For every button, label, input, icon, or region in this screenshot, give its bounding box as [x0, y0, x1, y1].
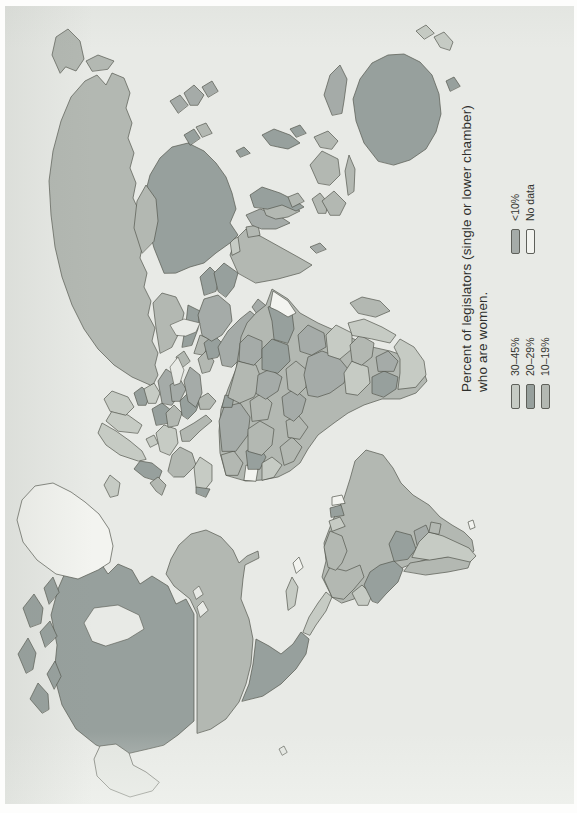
region-kamchatka	[86, 55, 114, 71]
region-germany	[156, 425, 178, 455]
region-sulawesi	[314, 131, 338, 149]
region-borneo	[310, 151, 340, 185]
region-japan	[184, 85, 204, 105]
legend-label-10-19: 10–19%	[539, 337, 551, 376]
rotated-figure-sheet: Percent of legislators (single or lower …	[0, 0, 577, 813]
region-chukotka	[52, 29, 84, 73]
legend-swatch-10-19	[541, 384, 550, 409]
region-hispaniola	[293, 557, 303, 573]
legend-label-30-45: 30–45%	[509, 337, 521, 376]
legend-item-10-19: 10–19%	[538, 337, 552, 409]
legend-swatch-30-45	[511, 384, 520, 409]
region-denmark	[146, 435, 158, 447]
region-new-zealand	[416, 25, 434, 39]
region-new-zealand	[434, 32, 453, 50]
legend-group-secondary: <10% No data	[508, 184, 538, 254]
scanned-map-figure-page: Percent of legislators (single or lower …	[0, 0, 577, 813]
region-arctic-island	[30, 683, 49, 713]
region-sri-lanka	[310, 243, 326, 253]
region-pakistan	[214, 263, 238, 297]
region-philippines	[290, 125, 306, 137]
region-central-america	[303, 592, 332, 635]
region-french-guiana	[332, 495, 345, 505]
region-iceland	[104, 475, 120, 497]
legend-group-primary: 30–45% 20–29% 10–19%	[508, 337, 553, 409]
region-tasmania	[446, 77, 460, 91]
figure-title-line2: who are women.	[475, 105, 491, 392]
figure-title: Percent of legislators (single or lower …	[459, 105, 491, 392]
region-australia	[353, 54, 441, 165]
legend-label-20-29: 20–29%	[524, 337, 536, 376]
region-japan	[170, 95, 188, 113]
region-india	[230, 229, 312, 283]
legend-swatch-20-29	[526, 384, 535, 409]
region-north-korea	[184, 129, 200, 145]
legend-label-no-data: No data	[524, 184, 536, 221]
region-new-guinea	[324, 65, 347, 115]
region-finland	[104, 391, 134, 415]
region-canada	[51, 555, 194, 755]
legend-item-30-45: 30–45%	[508, 337, 522, 409]
region-arctic-island	[23, 594, 43, 627]
legend-item-no-data: No data	[523, 184, 537, 254]
region-cuba	[286, 577, 298, 610]
region-japan	[202, 81, 218, 97]
figure-title-line1: Percent of legislators (single or lower …	[459, 105, 475, 392]
legend-item-lt10: <10%	[508, 184, 522, 254]
region-uruguay	[429, 522, 441, 534]
region-south-korea	[196, 123, 212, 137]
region-alaska	[94, 744, 159, 797]
region-suriname	[330, 505, 344, 517]
region-falklands	[468, 520, 475, 529]
legend-swatch-lt10	[511, 229, 520, 254]
region-spain	[194, 457, 212, 491]
region-taiwan	[236, 147, 250, 157]
region-portugal	[196, 487, 210, 497]
legend-item-20-29: 20–29%	[523, 337, 537, 409]
region-arctic-island	[18, 638, 36, 673]
region-hawaii	[279, 746, 287, 755]
legend-label-lt10: <10%	[509, 194, 521, 221]
region-java	[345, 155, 355, 195]
region-madagascar	[350, 297, 390, 317]
region-greenland	[17, 483, 113, 579]
region-italy	[180, 415, 212, 441]
region-china	[144, 143, 238, 273]
legend-swatch-no-data	[526, 229, 535, 254]
